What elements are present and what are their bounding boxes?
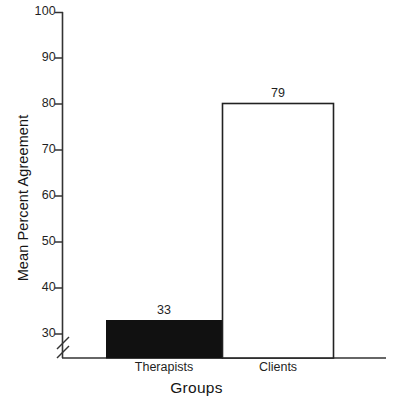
bar-therapists	[107, 321, 223, 359]
value-label-therapists: 33	[104, 303, 224, 317]
x-axis-title: Groups	[0, 379, 393, 397]
y-axis-title: Mean Percent Agreement	[15, 83, 31, 313]
chart-canvas	[0, 0, 393, 404]
category-label-therapists: Therapists	[104, 360, 224, 374]
value-label-clients: 79	[218, 86, 338, 100]
bar-clients	[223, 104, 334, 359]
category-label-clients: Clients	[218, 360, 338, 374]
bar-chart: 100 90 80 70 60 50 40 30 Mean Percent Ag…	[0, 0, 393, 404]
